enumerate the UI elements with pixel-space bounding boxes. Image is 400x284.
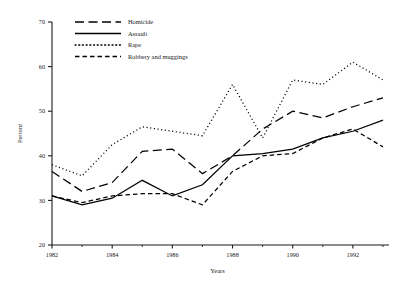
x-tick-label: 1984: [106, 251, 118, 258]
x-tick-label: 1992: [347, 251, 359, 258]
chart-legend: HomicideAssaultRapeRobbery and muggings: [75, 18, 188, 60]
x-tick-label: 1982: [46, 251, 58, 258]
y-axis-title: Percent: [16, 124, 23, 143]
y-tick-label: 50: [39, 107, 45, 114]
y-tick-label: 40: [39, 152, 45, 159]
x-tick-label: 1988: [226, 251, 238, 258]
y-tick-label: 70: [39, 18, 45, 25]
chart-container: 203040506070198219841986198819901992 Hom…: [0, 0, 400, 284]
series-line-rape: [52, 62, 383, 176]
series-line-robbery-and-muggings: [52, 129, 383, 205]
y-tick-label: 30: [39, 197, 45, 204]
legend-label-rape: Rape: [128, 41, 141, 48]
legend-label-robbery-and-muggings: Robbery and muggings: [128, 53, 188, 60]
axes: 203040506070198219841986198819901992: [39, 18, 389, 258]
series-line-homicide: [52, 98, 383, 192]
series-line-assault: [52, 120, 383, 205]
y-tick-label: 20: [39, 241, 45, 248]
x-tick-label: 1986: [166, 251, 178, 258]
x-tick-label: 1990: [287, 251, 299, 258]
line-chart: 203040506070198219841986198819901992 Hom…: [0, 0, 400, 284]
legend-label-assault: Assault: [128, 30, 147, 37]
series-lines: [52, 62, 383, 205]
y-tick-label: 60: [39, 63, 45, 70]
legend-label-homicide: Homicide: [128, 18, 153, 25]
x-axis-title: Years: [210, 267, 225, 274]
